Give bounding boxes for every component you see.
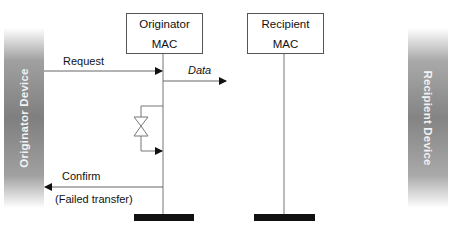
confirm-label: Confirm bbox=[62, 170, 101, 182]
data-label: Data bbox=[188, 64, 211, 76]
recipient-mac-line1: Recipient bbox=[248, 14, 323, 34]
timer-loop bbox=[141, 106, 163, 117]
originator-mac-line2: MAC bbox=[127, 34, 202, 54]
originator-mac-box: Originator MAC bbox=[126, 13, 203, 54]
recipient-terminator bbox=[254, 214, 315, 221]
originator-terminator bbox=[134, 214, 194, 221]
confirm-status-label: (Failed transfer) bbox=[55, 193, 133, 205]
timer-icon bbox=[134, 117, 148, 136]
recipient-mac-box: Recipient MAC bbox=[247, 13, 324, 54]
originator-mac-line1: Originator bbox=[127, 14, 202, 34]
recipient-mac-line2: MAC bbox=[248, 34, 323, 54]
request-label: Request bbox=[63, 55, 104, 67]
